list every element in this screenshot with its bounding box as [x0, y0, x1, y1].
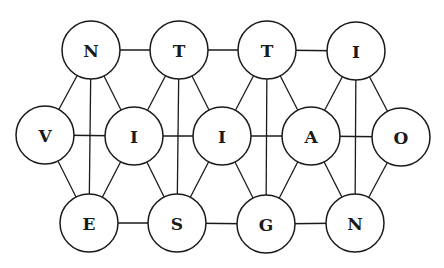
node-t1: T — [150, 21, 208, 79]
letter-graph-diagram: NTTIVIIAOESGN — [0, 0, 444, 268]
node-s: S — [148, 194, 206, 252]
node-label: O — [394, 128, 409, 148]
node-t2: T — [238, 21, 296, 79]
node-label: E — [83, 214, 96, 234]
node-n_top: N — [62, 21, 120, 79]
node-label: G — [259, 215, 274, 235]
node-o: O — [372, 108, 430, 166]
node-n_bot: N — [326, 194, 384, 252]
node-label: N — [347, 214, 363, 234]
node-label: T — [261, 41, 274, 61]
node-a: A — [282, 107, 340, 165]
node-label: N — [83, 41, 99, 61]
node-i1: I — [105, 107, 163, 165]
node-label: I — [352, 42, 360, 62]
node-v: V — [16, 106, 74, 164]
node-g: G — [237, 195, 295, 253]
node-label: S — [171, 214, 183, 234]
node-i_top: I — [327, 22, 385, 80]
node-label: T — [173, 41, 186, 61]
node-label: V — [37, 126, 52, 146]
node-label: I — [130, 127, 138, 147]
node-label: A — [303, 127, 318, 147]
node-i2: I — [193, 107, 251, 165]
node-e: E — [60, 194, 118, 252]
node-label: I — [218, 127, 226, 147]
